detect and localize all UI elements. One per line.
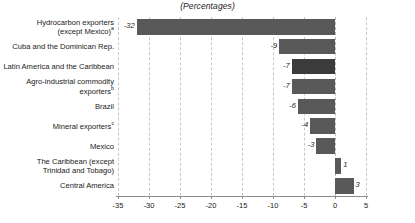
bar-row: -9 — [118, 37, 366, 57]
axis-tick-label: -10 — [268, 201, 279, 210]
category-label: Mexico — [0, 142, 114, 151]
category-label: Central America — [0, 181, 114, 190]
axis-tick-label: -5 — [301, 201, 308, 210]
bar-row: 1 — [118, 156, 366, 176]
category-label: Mineral exportersc — [0, 122, 114, 131]
bar[interactable] — [335, 178, 354, 194]
bar[interactable] — [292, 59, 335, 75]
category-label: Agro-industrial commodityexportersb — [0, 77, 114, 95]
category-label: Cuba and the Dominican Rep. — [0, 42, 114, 51]
axis-tick — [335, 196, 336, 199]
bar-value-label: 3 — [356, 180, 360, 189]
category-label: Latin America and the Caribbean — [0, 62, 114, 71]
axis-tick — [211, 196, 212, 199]
axis-tick-label: 5 — [364, 201, 368, 210]
axis-tick — [242, 196, 243, 199]
bar-value-label: 1 — [343, 160, 347, 169]
bar[interactable] — [310, 118, 335, 134]
bar-row: -6 — [118, 97, 366, 117]
bar[interactable] — [298, 99, 335, 115]
axis-tick-label: -20 — [206, 201, 217, 210]
gridline — [366, 17, 367, 196]
axis-tick-label: -35 — [113, 201, 124, 210]
bar-value-label: -6 — [289, 101, 296, 110]
axis-tick — [149, 196, 150, 199]
axis-tick — [366, 196, 367, 199]
bar[interactable] — [137, 19, 335, 35]
category-label: Hydrocarbon exporters(except Mexico)a — [0, 18, 114, 36]
chart-title: (Percentages) — [0, 1, 415, 11]
bar-row: -7 — [118, 57, 366, 77]
bar-row: -32 — [118, 17, 366, 37]
axis-tick-label: -30 — [144, 201, 155, 210]
axis-tick-label: 0 — [333, 201, 337, 210]
plot-area: -32-9-7-7-6-4-313 — [118, 17, 366, 196]
axis-tick — [273, 196, 274, 199]
axis-tick-label: -25 — [175, 201, 186, 210]
axis-tick — [118, 196, 119, 199]
axis-tick — [180, 196, 181, 199]
bar[interactable] — [292, 79, 335, 95]
axis-tick-label: -15 — [237, 201, 248, 210]
bar-value-label: -7 — [283, 81, 290, 90]
bar-value-label: -32 — [124, 21, 135, 30]
bar-value-label: -9 — [271, 41, 278, 50]
bar[interactable] — [279, 39, 335, 55]
bar[interactable] — [335, 158, 341, 174]
bar-value-label: -7 — [283, 61, 290, 70]
bar-rows: -32-9-7-7-6-4-313 — [118, 17, 366, 196]
category-label-column: Hydrocarbon exporters(except Mexico)aCub… — [0, 17, 114, 196]
bar-value-label: -3 — [308, 140, 315, 149]
footnote-marker: b — [111, 85, 114, 91]
category-label: The Caribbean (exceptTrinidad and Tobago… — [0, 157, 114, 175]
footnote-marker: c — [111, 120, 114, 126]
bar-row: -4 — [118, 116, 366, 136]
bar[interactable] — [316, 138, 335, 154]
bar-row: -7 — [118, 77, 366, 97]
footnote-marker: a — [111, 25, 114, 31]
bar-chart: (Percentages) Hydrocarbon exporters(exce… — [0, 0, 415, 223]
category-label: Brazil — [0, 102, 114, 111]
axis-tick — [304, 196, 305, 199]
bar-row: -3 — [118, 136, 366, 156]
bar-row: 3 — [118, 176, 366, 196]
bar-value-label: -4 — [302, 120, 309, 129]
